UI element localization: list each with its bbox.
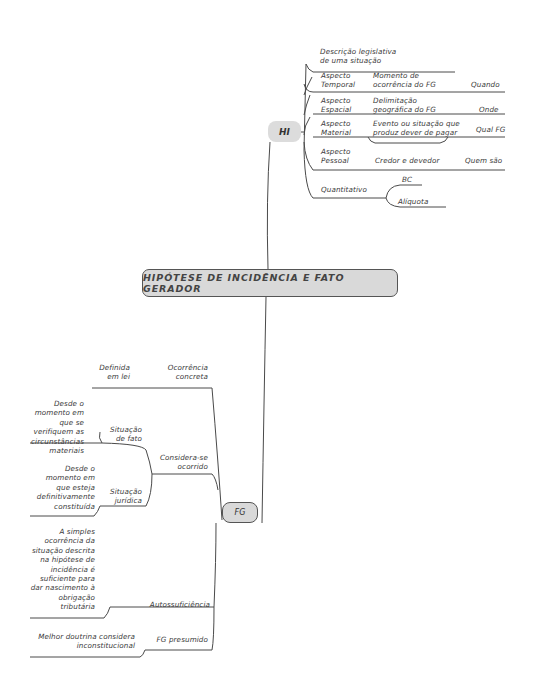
fg-situacao-juridica: Situação jurídica (100, 487, 142, 506)
aspect-temporal-name: Aspecto Temporal (321, 71, 355, 90)
hi-label: HI (279, 127, 290, 137)
fg-situacao-de-fato: Situação de fato (100, 425, 142, 444)
central-topic-node[interactable]: HIPÓTESE DE INCIDÊNCIA E FATO GERADOR (142, 269, 398, 297)
fg-ocorrencia-concreta: Ocorrência concreta (150, 363, 208, 382)
aspect-pessoal-description: Credor e devedor (375, 156, 439, 165)
aspect-material-name: Aspecto Material (321, 119, 351, 138)
quantitativo-bc: BC (402, 175, 412, 184)
fg-label: FG (235, 508, 246, 517)
aspect-espacial-description: Delimitação geográfica do FG (373, 96, 436, 115)
aspect-temporal-description: Momento de ocorrência do FG (373, 71, 436, 90)
fg-autossuficiencia-detail: A simples ocorrência da situação descrit… (20, 527, 95, 612)
fg-node[interactable]: FG (222, 502, 258, 523)
aspect-temporal-answer: Quando (471, 80, 500, 89)
aspect-material-answer: Qual FG (476, 125, 505, 134)
fg-situacao-juridica-detail: Desde o momento em que esteja definitiva… (20, 464, 95, 511)
fg-ocorrencia-detail: Definida em lei (92, 363, 130, 382)
aspect-espacial-name: Aspecto Espacial (321, 96, 351, 115)
fg-autossuficiencia: Autossuficiência (140, 600, 210, 609)
quantitativo-aliquota: Alíquota (398, 197, 428, 206)
fg-considera-se-ocorrido: Considera-se ocorrido (152, 453, 208, 472)
quantitativo-label: Quantitativo (321, 185, 367, 194)
central-topic-label: HIPÓTESE DE INCIDÊNCIA E FATO GERADOR (143, 272, 397, 294)
aspect-pessoal-answer: Quem são (465, 156, 502, 165)
hi-node[interactable]: HI (268, 121, 301, 142)
aspect-material-description: Evento ou situação que produz dever de p… (373, 119, 460, 138)
aspect-espacial-answer: Onde (479, 105, 499, 114)
fg-presumido-detail: Melhor doutrina considera inconstitucion… (20, 632, 135, 651)
fg-situacao-de-fato-detail: Desde o momento em que se verifiquem as … (20, 399, 84, 455)
hi-definition: Descrição legislativa de uma situação (320, 47, 396, 66)
fg-presumido: FG presumido (150, 635, 208, 644)
aspect-pessoal-name: Aspecto Pessoal (321, 147, 351, 166)
